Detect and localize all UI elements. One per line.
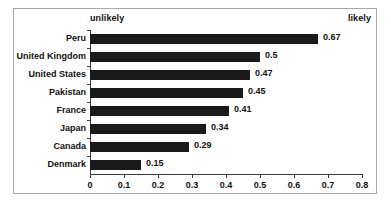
category-label: United Kingdom bbox=[17, 51, 87, 61]
bar bbox=[90, 52, 260, 62]
bar-row: 0.45 bbox=[90, 84, 362, 102]
bar-row: 0.29 bbox=[90, 138, 362, 156]
bar bbox=[90, 88, 243, 98]
category-tick bbox=[87, 84, 90, 85]
bar-value-label: 0.15 bbox=[146, 158, 164, 168]
value-tick bbox=[226, 174, 227, 178]
bar-value-label: 0.41 bbox=[234, 104, 252, 114]
value-tick bbox=[260, 174, 261, 178]
bar bbox=[90, 70, 250, 80]
value-tick bbox=[192, 174, 193, 178]
value-tick-label: 0.7 bbox=[322, 180, 335, 190]
category-label: Japan bbox=[60, 123, 86, 133]
value-tick bbox=[90, 174, 91, 178]
bar bbox=[90, 34, 318, 44]
value-tick bbox=[328, 174, 329, 178]
bar bbox=[90, 142, 189, 152]
value-tick-label: 0.6 bbox=[288, 180, 301, 190]
category-tick bbox=[87, 66, 90, 67]
category-tick bbox=[87, 138, 90, 139]
bar-row: 0.41 bbox=[90, 102, 362, 120]
bar-row: 0.5 bbox=[90, 48, 362, 66]
value-tick bbox=[158, 174, 159, 178]
value-tick-label: 0.5 bbox=[254, 180, 267, 190]
bar-value-label: 0.45 bbox=[248, 86, 266, 96]
value-tick bbox=[294, 174, 295, 178]
bar-value-label: 0.5 bbox=[265, 50, 278, 60]
bar-row: 0.34 bbox=[90, 120, 362, 138]
bar bbox=[90, 124, 206, 134]
category-tick bbox=[87, 48, 90, 49]
bar-row: 0.67 bbox=[90, 30, 362, 48]
category-label: Denmark bbox=[47, 159, 86, 169]
value-tick-label: 0.3 bbox=[186, 180, 199, 190]
category-tick bbox=[87, 120, 90, 121]
chart-figure: unlikely likely PeruUnited KingdomUnited… bbox=[0, 0, 391, 209]
bar-row: 0.15 bbox=[90, 156, 362, 174]
value-tick-label: 0.1 bbox=[118, 180, 131, 190]
bar bbox=[90, 160, 141, 170]
category-label: Canada bbox=[53, 141, 86, 151]
plot-area: 0.670.50.470.450.410.340.290.1500.10.20.… bbox=[90, 30, 362, 174]
category-label: France bbox=[56, 105, 86, 115]
value-tick-label: 0.8 bbox=[356, 180, 369, 190]
bar-row: 0.47 bbox=[90, 66, 362, 84]
category-tick bbox=[87, 102, 90, 103]
bar-value-label: 0.47 bbox=[255, 68, 273, 78]
category-axis-labels: PeruUnited KingdomUnited StatesPakistanF… bbox=[0, 30, 86, 174]
value-tick bbox=[124, 174, 125, 178]
category-label: Peru bbox=[66, 33, 86, 43]
bar bbox=[90, 106, 229, 116]
category-tick bbox=[87, 156, 90, 157]
value-tick-label: 0 bbox=[87, 180, 92, 190]
scale-anchor-left-label: unlikely bbox=[90, 13, 124, 23]
bar-value-label: 0.67 bbox=[323, 32, 341, 42]
category-label: United States bbox=[28, 69, 86, 79]
value-tick-label: 0.2 bbox=[152, 180, 165, 190]
category-label: Pakistan bbox=[49, 87, 86, 97]
category-tick bbox=[87, 30, 90, 31]
bar-value-label: 0.29 bbox=[194, 140, 212, 150]
bar-value-label: 0.34 bbox=[211, 122, 229, 132]
value-tick-label: 0.4 bbox=[220, 180, 233, 190]
value-tick bbox=[362, 174, 363, 178]
scale-anchor-right-label: likely bbox=[348, 13, 371, 23]
